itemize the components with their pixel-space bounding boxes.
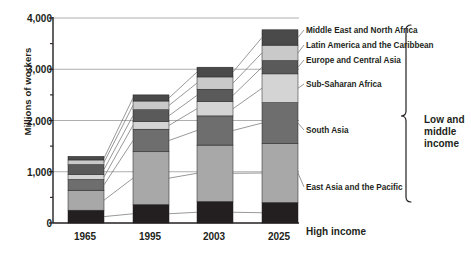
leader-line-south-asia-2003 [233,123,262,130]
bar-1995-segment-4 [133,110,169,122]
leader-line-high-income-2003 [233,212,262,213]
leader-line-south-asia-1965 [104,140,133,184]
leader-line-latin-america-and-the-caribbean-2003 [233,53,262,83]
leader-line-east-asia-and-the-pacific-2025 [298,173,304,187]
leader-line-europe-and-central-asia-2025 [298,60,304,67]
bar-1965-segment-6 [68,156,104,160]
bar-1965-segment-3 [68,174,104,179]
chart-root: Millions of workers 4,000 3,000 2,000 1,… [0,0,471,271]
leader-line-high-income-1965 [104,214,133,217]
bar-2003-segment-2 [197,116,233,145]
leader-line-sub-saharan-africa-2025 [298,84,304,88]
leader-line-europe-and-central-asia-1995 [169,95,197,115]
bar-1965-segment-4 [68,165,104,175]
bar-1995-segment-5 [133,101,169,110]
bar-2003-segment-1 [197,145,233,201]
bar-1995-segment-6 [133,95,169,101]
bar-1965-segment-2 [68,179,104,190]
leader-line-east-asia-and-the-pacific-1965 [104,178,133,200]
bracket-group [401,25,411,202]
bar-2025-segment-4 [262,61,298,74]
bar-1995-segment-2 [133,129,169,152]
leader-line-middle-east-and-north-africa-2025 [298,30,304,37]
bar-1965-segment-5 [68,160,104,165]
bar-2025-segment-6 [262,30,298,45]
bar-2003-segment-0 [197,201,233,223]
bar-2025-segment-5 [262,45,298,60]
leader-line-latin-america-and-the-caribbean-2025 [298,45,304,53]
leader-line-east-asia-and-the-pacific-1995 [169,173,197,178]
leader-line-middle-east-and-north-africa-1965 [104,98,133,158]
bar-1995-segment-1 [133,152,169,205]
bar-2025-segment-2 [262,103,298,144]
bar-1965-segment-1 [68,190,104,210]
leader-line-latin-america-and-the-caribbean-1965 [104,105,133,162]
low-middle-income-bracket [401,25,411,202]
leader-line-middle-east-and-north-africa-2003 [233,37,262,72]
bar-2025-segment-0 [262,203,298,224]
leader-line-europe-and-central-asia-1965 [104,116,133,170]
leader-line-high-income-1995 [169,212,197,214]
bar-2025-segment-3 [262,74,298,103]
leader-line-south-asia-1995 [169,130,197,140]
bar-2025-segment-1 [262,144,298,203]
bar-1965-segment-0 [68,210,104,223]
bar-2003-segment-5 [197,77,233,89]
bar-2003-segment-4 [197,89,233,101]
leader-line-south-asia-2025 [298,123,304,130]
bar-1995-segment-3 [133,122,169,130]
bars-group [68,30,298,223]
bar-1995-segment-0 [133,205,169,223]
chart-plot-area [0,0,471,271]
leader-line-sub-saharan-africa-1995 [169,109,197,126]
bar-2003-segment-3 [197,102,233,116]
bar-2003-segment-6 [197,67,233,77]
